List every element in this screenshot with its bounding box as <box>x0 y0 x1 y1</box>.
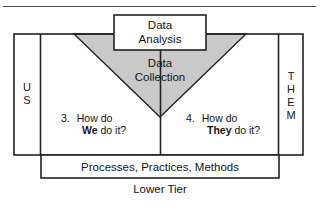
data-collection-line-2: Collection <box>135 71 186 85</box>
data-analysis-box-label: Data Analysis <box>139 19 182 46</box>
data-collection-line-1: Data <box>135 57 186 71</box>
them-letter-2: H <box>286 83 295 96</box>
question-4: 4.How do They do it? <box>186 112 260 137</box>
them-column-label: T H E M <box>286 70 295 122</box>
data-analysis-line-1: Data <box>139 19 182 33</box>
processes-box-label: Processes, Practices, Methods <box>81 161 239 175</box>
question-4-emphasis: They <box>207 124 232 136</box>
us-column-label: U S <box>23 81 31 107</box>
question-3: 3.How do We do it? <box>61 112 126 137</box>
us-letter-2: S <box>23 94 31 107</box>
them-letter-4: M <box>286 109 295 122</box>
them-letter-3: E <box>286 96 295 109</box>
them-letter-1: T <box>286 70 295 83</box>
lower-tier-caption: Lower Tier <box>133 183 187 197</box>
question-4-second-line: They do it? <box>207 124 260 136</box>
question-4-line-2-rest: do it? <box>232 124 261 136</box>
question-3-number: 3. <box>61 112 70 124</box>
data-collection-label: Data Collection <box>135 57 186 84</box>
data-analysis-line-2: Analysis <box>139 33 182 47</box>
question-3-emphasis: We <box>82 124 98 136</box>
question-3-line-2-rest: do it? <box>98 124 127 136</box>
question-4-number: 4. <box>186 112 195 124</box>
question-3-first-line: 3.How do <box>61 112 126 124</box>
question-3-second-line: We do it? <box>82 124 126 136</box>
question-4-line-1: How do <box>202 112 238 124</box>
question-4-first-line: 4.How do <box>186 112 260 124</box>
question-3-line-1: How do <box>77 112 113 124</box>
us-letter-1: U <box>23 81 31 94</box>
